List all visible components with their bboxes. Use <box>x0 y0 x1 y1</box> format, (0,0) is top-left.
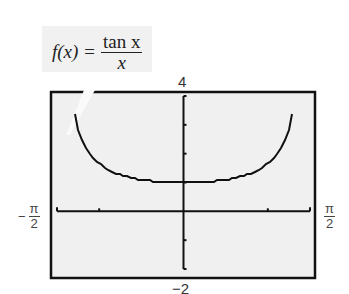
graph-screen <box>0 0 349 294</box>
